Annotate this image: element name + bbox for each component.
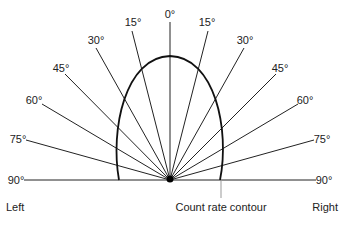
right-label: Right xyxy=(312,201,338,213)
angle-label: 60° xyxy=(297,94,314,106)
angle-label: 0° xyxy=(165,8,176,20)
angle-label: 75° xyxy=(10,133,27,145)
angle-rays xyxy=(24,22,316,180)
angle-label: 60° xyxy=(26,94,43,106)
left-label: Left xyxy=(6,201,24,213)
angle-label: 90° xyxy=(316,174,333,186)
angle-label: 15° xyxy=(125,16,142,28)
angle-label: 30° xyxy=(237,34,254,46)
contour-label: Count rate contour xyxy=(175,201,266,213)
polar-diagram: 0°15°15°30°30°45°45°60°60°75°75°90°90° L… xyxy=(0,0,344,226)
angle-label: 45° xyxy=(272,62,289,74)
angle-label: 15° xyxy=(199,16,216,28)
angle-label: 30° xyxy=(88,34,105,46)
angle-label: 45° xyxy=(53,62,70,74)
origin-point xyxy=(167,176,174,183)
angle-label: 75° xyxy=(314,133,331,145)
angle-label: 90° xyxy=(8,174,25,186)
